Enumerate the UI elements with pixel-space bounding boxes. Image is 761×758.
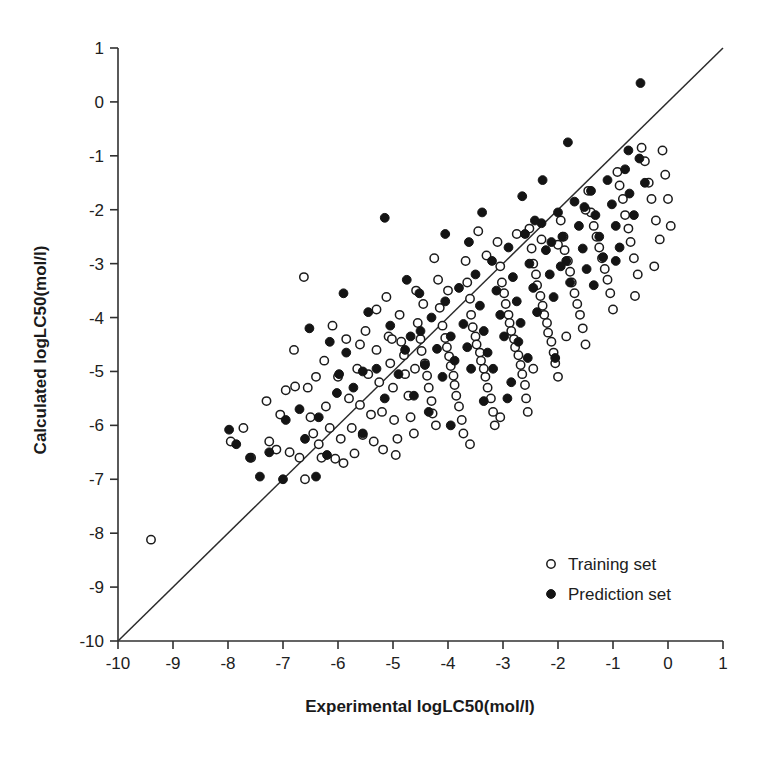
data-point-training xyxy=(432,421,440,429)
data-point-training xyxy=(557,216,565,224)
data-point-training xyxy=(389,383,397,391)
data-point-training xyxy=(430,254,438,262)
x-tick-label: -2 xyxy=(550,654,565,673)
data-point-training xyxy=(471,332,479,340)
data-point-training xyxy=(425,383,433,391)
x-axis-title: Experimental logLC50(mol/l) xyxy=(305,697,535,716)
data-point-prediction xyxy=(424,407,433,416)
data-point-prediction xyxy=(549,293,558,302)
data-point-training xyxy=(304,383,312,391)
data-point-training xyxy=(320,356,328,364)
y-tick-label: 1 xyxy=(95,39,104,58)
data-point-training xyxy=(536,292,544,300)
data-point-prediction xyxy=(441,297,450,306)
data-point-training xyxy=(543,319,551,327)
data-point-training xyxy=(410,429,418,437)
data-point-prediction xyxy=(615,243,624,252)
data-point-prediction xyxy=(479,397,488,406)
data-point-prediction xyxy=(489,364,498,373)
data-point-prediction xyxy=(364,308,373,317)
data-point-training xyxy=(397,338,405,346)
data-point-training xyxy=(601,265,609,273)
data-point-training xyxy=(504,311,512,319)
data-point-training xyxy=(496,413,504,421)
data-point-training xyxy=(406,413,414,421)
data-point-prediction xyxy=(232,440,241,449)
data-point-prediction xyxy=(608,200,617,209)
data-point-training xyxy=(474,227,482,235)
data-point-prediction xyxy=(551,354,560,363)
data-point-training xyxy=(498,278,506,286)
data-point-prediction xyxy=(591,211,600,220)
data-point-prediction xyxy=(533,308,542,317)
data-point-training xyxy=(419,300,427,308)
data-point-training xyxy=(315,440,323,448)
y-tick-label: -4 xyxy=(89,309,104,328)
data-point-training xyxy=(576,311,584,319)
data-point-training xyxy=(664,195,672,203)
data-point-training xyxy=(544,328,552,336)
data-point-training xyxy=(650,262,658,270)
data-point-training xyxy=(290,346,298,354)
x-tick-label: -9 xyxy=(165,654,180,673)
data-point-prediction xyxy=(507,378,516,387)
data-point-training xyxy=(312,373,320,381)
data-point-training xyxy=(414,319,422,327)
data-point-prediction xyxy=(611,257,620,266)
data-point-training xyxy=(461,257,469,265)
data-point-prediction xyxy=(372,364,381,373)
data-point-prediction xyxy=(575,222,584,231)
data-point-training xyxy=(388,335,396,343)
data-point-prediction xyxy=(570,197,579,206)
data-point-training xyxy=(579,324,587,332)
data-point-prediction xyxy=(323,451,332,460)
data-point-training xyxy=(370,437,378,445)
data-point-prediction xyxy=(641,178,650,187)
data-point-training xyxy=(356,401,364,409)
data-point-training xyxy=(496,262,504,270)
data-point-prediction xyxy=(421,361,430,370)
data-point-training xyxy=(463,278,471,286)
data-point-training xyxy=(466,440,474,448)
data-point-prediction xyxy=(521,230,530,239)
data-point-prediction xyxy=(265,448,274,457)
data-point-prediction xyxy=(438,372,447,381)
y-tick-label: -8 xyxy=(89,524,104,543)
data-point-training xyxy=(326,424,334,432)
scatter-plot: -10-9-8-7-6-5-4-3-2-101 10-1-2-3-4-5-6-7… xyxy=(0,0,761,758)
data-point-prediction xyxy=(358,429,367,438)
data-point-training xyxy=(342,335,350,343)
y-tick-label: -9 xyxy=(89,578,104,597)
data-point-training xyxy=(372,346,380,354)
data-point-training xyxy=(581,340,589,348)
data-point-prediction xyxy=(467,364,476,373)
data-point-training xyxy=(522,394,530,402)
data-point-prediction xyxy=(325,337,334,346)
data-point-training xyxy=(416,335,424,343)
data-point-training xyxy=(291,382,299,390)
data-point-prediction xyxy=(500,332,509,341)
data-point-training xyxy=(481,373,489,381)
data-point-training xyxy=(637,144,645,152)
data-point-training xyxy=(337,435,345,443)
data-point-training xyxy=(491,421,499,429)
data-point-prediction xyxy=(587,186,596,195)
data-point-training xyxy=(372,305,380,313)
data-point-prediction xyxy=(416,327,425,336)
data-point-training xyxy=(547,338,555,346)
data-point-training xyxy=(469,323,477,331)
data-point-training xyxy=(300,273,308,281)
data-point-training xyxy=(656,235,664,243)
data-point-training xyxy=(514,351,522,359)
data-point-training xyxy=(444,286,452,294)
data-point-training xyxy=(570,289,578,297)
data-point-training xyxy=(345,394,353,402)
data-point-training xyxy=(505,319,513,327)
data-point-prediction xyxy=(402,275,411,284)
data-point-training xyxy=(477,356,485,364)
data-point-prediction xyxy=(465,238,474,247)
data-point-prediction xyxy=(564,138,573,147)
x-tick-label: -5 xyxy=(385,654,400,673)
data-point-training xyxy=(518,370,526,378)
data-point-training xyxy=(392,451,400,459)
